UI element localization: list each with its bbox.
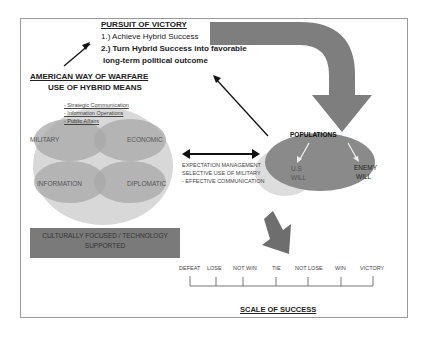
pursuit-line-2: 2.) Turn Hybrid Success into favorable: [101, 44, 247, 54]
middle-text-2: SELECTIVE USE OF MILITARY: [182, 170, 261, 177]
scale-label-not-win: NOT WIN: [233, 265, 257, 272]
quadrant-economic: ECONOMIC: [127, 136, 163, 143]
scale-label-win: WIN: [335, 265, 346, 272]
populations-oval: [265, 133, 375, 191]
quadrant-information: INFORMATION: [37, 180, 82, 187]
enemy-will-2: WILL: [356, 173, 371, 180]
scale-label-not-lose: NOT LOSE: [295, 265, 323, 272]
pursuit-title: PURSUIT OF VICTORY: [101, 20, 187, 30]
pursuit-line-3: long-term political outcome: [103, 56, 208, 66]
quadrant-military: MILITARY: [30, 136, 59, 143]
block-arrow-down-icon: [262, 211, 291, 254]
middle-text-3: - EFFECTIVE COMMUNICATION: [182, 178, 264, 185]
scale-title: SCALE OF SUCCESS: [240, 305, 316, 315]
footer-line-1: CULTURALLY FOCUSED / TECHNOLOGY: [30, 232, 180, 239]
hybrid-means-subtitle: USE OF HYBRID MEANS: [48, 83, 142, 93]
us-will-1: U.S: [291, 165, 302, 172]
quadrant-diplomatic: DIPLOMATIC: [127, 180, 166, 187]
arrow-diagonal-icon: [215, 78, 268, 136]
bullet-public-affairs: - Public Affairs: [64, 118, 99, 125]
middle-text-1: EXPECTATION MANAGEMENT: [182, 162, 261, 169]
scale-label-victory: VICTORY: [360, 265, 384, 272]
bullet-info-ops: - Information Operations: [64, 110, 123, 117]
pursuit-line-1: 1.) Achieve Hybrid Success: [101, 32, 198, 42]
footer-line-2: SUPPORTED: [30, 242, 180, 249]
enemy-will-1: ENEMY: [354, 164, 377, 171]
us-will-2: WILL: [291, 174, 306, 181]
scale-label-defeat: DEFEAT: [179, 265, 200, 272]
american-way-title: AMERICAN WAY OF WARFARE: [30, 72, 148, 82]
populations-title: POPULATIONS: [290, 131, 336, 138]
bullet-strategic: - Strategic Communication: [64, 102, 129, 109]
scale-bar: [190, 276, 373, 286]
curved-arrow-icon: [210, 22, 372, 132]
scale-label-lose: LOSE: [207, 265, 222, 272]
scale-label-tie: TIE: [272, 265, 281, 272]
